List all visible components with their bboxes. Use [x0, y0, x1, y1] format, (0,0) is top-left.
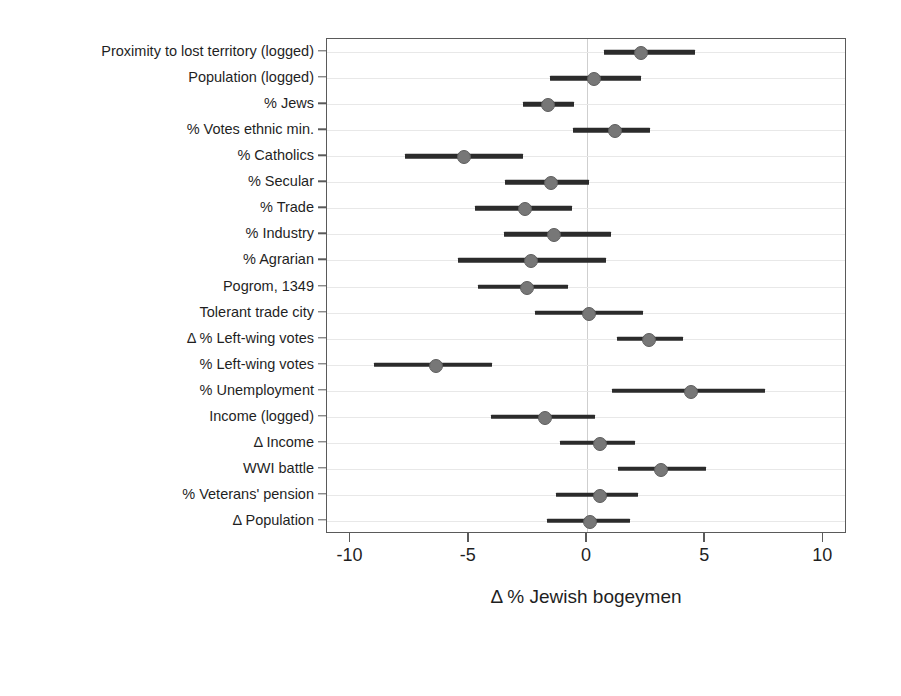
y-axis-tick: [318, 285, 326, 286]
gridline-horizontal: [327, 52, 845, 53]
y-axis-tick: [318, 233, 326, 234]
y-axis-label: Δ Population: [233, 513, 314, 528]
estimate-point: [654, 463, 668, 477]
y-axis-label: % Trade: [260, 200, 314, 215]
y-axis-label: Tolerant trade city: [200, 304, 314, 319]
y-axis-tick: [318, 415, 326, 416]
estimate-point: [524, 254, 538, 268]
y-axis-tick: [318, 259, 326, 260]
y-axis-label: % Unemployment: [200, 382, 314, 397]
y-axis-tick: [318, 76, 326, 77]
x-axis-tick: [822, 533, 823, 542]
y-axis-label: % Secular: [248, 174, 314, 189]
x-axis-tick: [349, 533, 350, 542]
confidence-interval-bar: [604, 50, 695, 55]
x-axis-tick: [703, 533, 704, 542]
y-axis-labels: Proximity to lost territory (logged)Popu…: [0, 38, 314, 533]
y-axis-label: % Votes ethnic min.: [187, 122, 314, 137]
estimate-point: [684, 385, 698, 399]
estimate-point: [583, 515, 597, 529]
y-axis-label: Pogrom, 1349: [223, 278, 314, 293]
gridline-horizontal: [327, 391, 845, 392]
estimate-point: [582, 307, 596, 321]
x-axis-tick-label: 5: [699, 545, 709, 565]
estimate-point: [593, 489, 607, 503]
x-axis-title: Δ % Jewish bogeymen: [326, 586, 846, 608]
y-axis-label: % Left-wing votes: [200, 356, 314, 371]
y-axis-tick: [318, 311, 326, 312]
y-axis-tick: [318, 102, 326, 103]
estimate-point: [587, 72, 601, 86]
y-axis-label: Δ % Left-wing votes: [187, 330, 314, 345]
gridline-horizontal: [327, 104, 845, 105]
estimate-point: [634, 46, 648, 60]
y-axis-label: Population (logged): [188, 70, 314, 85]
y-axis-label: % Jews: [264, 96, 314, 111]
x-axis-tick-label: -5: [460, 545, 476, 565]
y-axis-label: % Veterans' pension: [182, 487, 314, 502]
x-axis-tick-label: -10: [337, 545, 363, 565]
x-axis-tick-label: 0: [581, 545, 591, 565]
y-axis-label: Proximity to lost territory (logged): [101, 44, 314, 59]
y-axis-label: % Catholics: [237, 148, 314, 163]
y-axis-label: % Agrarian: [243, 252, 314, 267]
estimate-point: [593, 437, 607, 451]
estimate-point: [547, 228, 561, 242]
y-axis-tick: [318, 467, 326, 468]
gridline-horizontal: [327, 287, 845, 288]
x-axis-tick: [585, 533, 586, 542]
y-axis-tick: [318, 50, 326, 51]
estimate-point: [457, 150, 471, 164]
coefficient-plot-figure: Proximity to lost territory (logged)Popu…: [0, 0, 901, 696]
y-axis-label: Income (logged): [209, 409, 314, 424]
y-axis-tick: [318, 155, 326, 156]
estimate-point: [642, 333, 656, 347]
gridline-horizontal: [327, 208, 845, 209]
zero-reference-line: [587, 39, 588, 532]
y-axis-tick: [318, 207, 326, 208]
estimate-point: [538, 411, 552, 425]
x-axis-tick-label: 10: [812, 545, 832, 565]
estimate-point: [541, 98, 555, 112]
y-axis-tick: [318, 128, 326, 129]
gridline-horizontal: [327, 469, 845, 470]
y-axis-tick: [318, 363, 326, 364]
y-axis-label: WWI battle: [243, 461, 314, 476]
y-axis-tick: [318, 337, 326, 338]
y-axis-tick: [318, 493, 326, 494]
y-axis-tick: [318, 389, 326, 390]
gridline-horizontal: [327, 339, 845, 340]
y-axis-label: % Industry: [246, 226, 315, 241]
y-axis-label: Δ Income: [254, 435, 314, 450]
estimate-point: [520, 281, 534, 295]
plot-area: [326, 38, 846, 533]
y-axis-tick: [318, 519, 326, 520]
estimate-point: [608, 124, 622, 138]
x-axis-tick: [467, 533, 468, 542]
estimate-point: [518, 202, 532, 216]
estimate-point: [429, 359, 443, 373]
estimate-point: [544, 176, 558, 190]
y-axis-tick: [318, 181, 326, 182]
y-axis-tick: [318, 441, 326, 442]
